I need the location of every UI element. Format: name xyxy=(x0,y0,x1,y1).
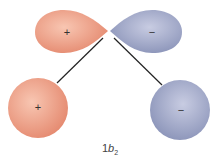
label-subscript: 2 xyxy=(114,149,118,156)
orbital-diagram: + − + − xyxy=(0,0,220,164)
upper-left-lobe xyxy=(35,10,108,53)
upper-right-lobe xyxy=(110,10,182,53)
orbital-label: 1b2 xyxy=(0,142,220,156)
sign-lower-left: + xyxy=(35,101,41,113)
sign-upper-right: − xyxy=(149,26,155,38)
sign-lower-right: − xyxy=(178,104,184,116)
sign-upper-left: + xyxy=(64,26,70,38)
